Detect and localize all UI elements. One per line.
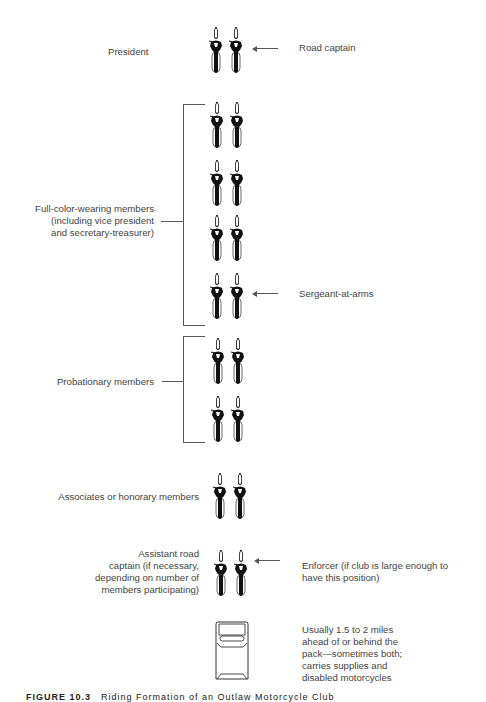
- label-full-color-3: and secretary-treasurer): [51, 227, 154, 239]
- motorcycle-icon: [233, 550, 249, 596]
- arrow-left-icon: [256, 48, 278, 49]
- motorcycle-icon: [230, 338, 246, 384]
- motorcycle-icon: [210, 396, 226, 442]
- motorcycle-icon: [209, 215, 225, 261]
- label-vehicle-1: Usually 1.5 to 2 miles: [302, 624, 393, 636]
- bracket-full-color: [183, 104, 184, 325]
- label-road-captain: Road captain: [299, 42, 356, 54]
- motorcycle-icon: [232, 473, 248, 519]
- figure-caption: FIGURE 10.3Riding Formation of an Outlaw…: [26, 692, 335, 702]
- arrow-left-icon: [258, 560, 280, 561]
- label-associates: Associates or honorary members: [58, 491, 199, 503]
- bracket-connector: [162, 381, 183, 382]
- label-assistant-2: captain (if necessary,: [109, 560, 199, 572]
- label-assistant-4: members participating): [101, 584, 199, 596]
- label-probationary: Probationary members: [57, 376, 154, 388]
- bracket-connector: [161, 221, 183, 222]
- motorcycle-icon: [213, 550, 229, 596]
- label-enforcer-2: have this position): [302, 572, 379, 584]
- motorcycle-icon: [229, 160, 245, 206]
- label-full-color-1: Full-color-wearing members: [35, 203, 154, 215]
- motorcycle-icon: [209, 160, 225, 206]
- motorcycle-icon: [229, 215, 245, 261]
- motorcycle-icon: [209, 102, 225, 148]
- motorcycle-icon: [229, 273, 245, 319]
- label-full-color-2: (including vice president: [51, 215, 154, 227]
- label-vehicle-3: pack—sometimes both;: [302, 648, 402, 660]
- motorcycle-icon: [230, 396, 246, 442]
- motorcycle-icon: [229, 102, 245, 148]
- bracket-tick-top: [183, 104, 205, 105]
- label-vehicle-2: ahead of or behind the: [302, 636, 398, 648]
- label-vehicle-5: disabled motorcycles: [302, 672, 392, 684]
- bracket-tick-bottom: [183, 325, 205, 326]
- label-vehicle-4: carries supplies and: [302, 660, 387, 672]
- bracket-tick-top: [183, 336, 205, 337]
- motorcycle-icon: [212, 473, 228, 519]
- figure-number: FIGURE 10.3: [26, 692, 91, 702]
- figure-caption-text: Riding Formation of an Outlaw Motorcycle…: [101, 692, 335, 702]
- bracket-probationary: [183, 336, 184, 442]
- label-assistant-1: Assistant road: [138, 548, 199, 560]
- label-assistant-3: depending on number of: [95, 572, 199, 584]
- motorcycle-icon: [228, 27, 244, 73]
- motorcycle-icon: [209, 273, 225, 319]
- arrow-left-icon: [256, 293, 278, 294]
- label-president: President: [108, 46, 149, 58]
- label-sergeant: Sergeant-at-arms: [299, 288, 374, 300]
- label-enforcer-1: Enforcer (if club is large enough to: [302, 560, 448, 572]
- motorcycle-icon: [210, 338, 226, 384]
- support-vehicle-icon: [214, 621, 250, 681]
- bracket-tick-bottom: [183, 442, 205, 443]
- motorcycle-icon: [208, 27, 224, 73]
